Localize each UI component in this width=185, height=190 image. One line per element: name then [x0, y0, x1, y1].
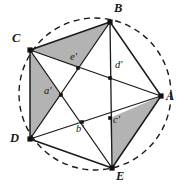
vertex-label-A: A	[166, 90, 174, 103]
vertex-dot-A	[158, 93, 163, 98]
edge-D-E	[30, 139, 112, 168]
geometry-canvas	[0, 0, 185, 190]
inner-label-a-prime: a'	[44, 86, 52, 97]
vertex-label-C: C	[12, 32, 20, 45]
inner-label-b-prime: b'	[76, 124, 84, 135]
vertex-dot-E	[109, 165, 114, 170]
inner-dot-a	[59, 93, 63, 97]
vertex-label-E: E	[116, 170, 124, 183]
inner-dot-c	[108, 116, 112, 120]
vertex-dot-B	[107, 19, 112, 24]
pentagon-figure: A B C D E a' b' c' d' e'	[0, 0, 185, 190]
vertex-dot-C	[27, 47, 32, 52]
inner-dot-d	[108, 76, 112, 80]
inner-dot-e	[76, 66, 80, 70]
vertex-label-B: B	[114, 2, 122, 15]
diagonal-B-E	[110, 22, 112, 168]
vertex-label-D: D	[10, 132, 19, 145]
inner-label-e-prime: e'	[70, 52, 77, 63]
inner-label-d-prime: d'	[115, 60, 123, 71]
vertex-dot-D	[27, 136, 32, 141]
inner-label-c-prime: c'	[113, 115, 120, 126]
